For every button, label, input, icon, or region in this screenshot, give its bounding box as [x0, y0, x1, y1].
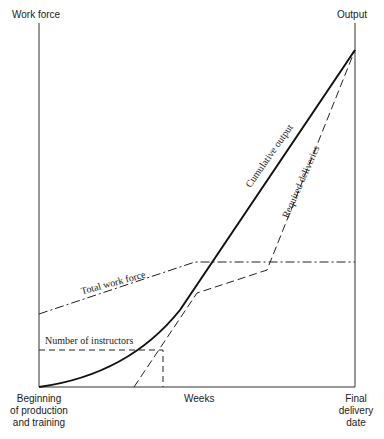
weeks-label: Weeks: [184, 393, 214, 405]
x-start-line3: and training: [6, 417, 72, 429]
x-end-line3: date: [334, 417, 378, 429]
x-end-line1: Final: [334, 393, 378, 405]
instructors-line: [39, 350, 163, 387]
x-end-line2: delivery: [334, 405, 378, 417]
output-axis-label: Output: [337, 9, 367, 21]
x-start-line2: of production: [6, 405, 72, 417]
x-start-label: Beginning of production and training: [6, 393, 72, 429]
number-of-instructors-label: Number of instructors: [45, 335, 133, 347]
work-force-axis-label: Work force: [12, 9, 60, 21]
chart-canvas: [0, 0, 384, 439]
x-start-line1: Beginning: [6, 393, 72, 405]
x-end-label: Final delivery date: [334, 393, 378, 429]
